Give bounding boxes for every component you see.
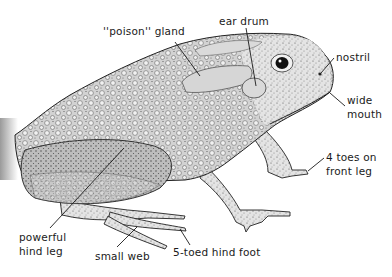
- label-front-toes: 4 toes on front leg: [326, 150, 377, 178]
- leader-line-wide-mouth: [330, 93, 345, 106]
- label-text: 4 toes on: [326, 150, 377, 164]
- toad-diagram: ''poison'' gland ear drum nostril wide m…: [0, 0, 392, 277]
- label-text: 5-toed hind foot: [173, 245, 261, 259]
- label-poison-gland: ''poison'' gland: [103, 24, 185, 38]
- label-text: ear drum: [219, 14, 269, 28]
- label-text: powerful: [19, 230, 66, 244]
- label-text: front leg: [326, 164, 377, 178]
- label-text: ''poison'' gland: [103, 24, 185, 38]
- hind-foot: [60, 200, 186, 249]
- label-text: mouth: [347, 107, 382, 121]
- label-text: small web: [95, 249, 150, 263]
- label-text: hind leg: [19, 244, 66, 258]
- leader-line-front-toes: [308, 158, 324, 171]
- label-hind-leg: powerful hind leg: [19, 230, 66, 258]
- label-text: nostril: [336, 50, 370, 64]
- label-text: wide: [347, 93, 382, 107]
- label-nostril: nostril: [336, 50, 370, 64]
- label-wide-mouth: wide mouth: [347, 93, 382, 121]
- ear-drum-shape: [242, 78, 266, 98]
- label-small-web: small web: [95, 249, 150, 263]
- leader-line-hind-foot: [180, 229, 190, 245]
- eye: [271, 54, 293, 72]
- label-hind-foot: 5-toed hind foot: [173, 245, 261, 259]
- label-ear-drum: ear drum: [219, 14, 269, 28]
